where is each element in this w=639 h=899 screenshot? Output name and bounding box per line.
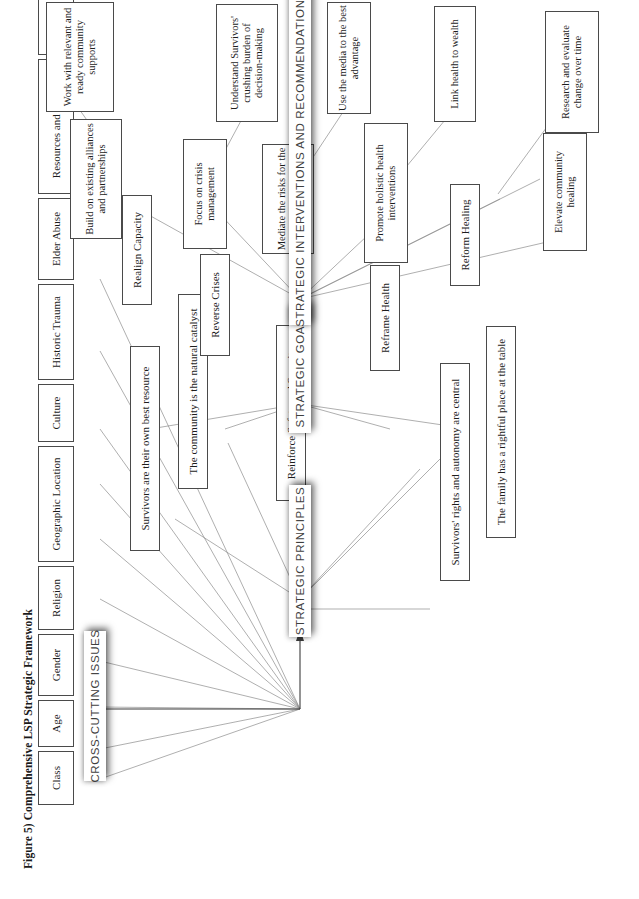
intervention-promote-holistic-health: Promote holistic health interventions <box>364 123 408 263</box>
node-label: Elevate community healing <box>553 136 577 248</box>
cross-cutting-issue-geographic-location: Geographic Location <box>38 446 74 562</box>
node-label: Work with relevant and ready community s… <box>62 5 98 109</box>
node-label: Culture <box>50 397 63 430</box>
strategic-principle-survivors-rights: Survivors' rights and autonomy are centr… <box>440 363 470 581</box>
node-label: Reverse Crises <box>209 272 222 338</box>
node-label: Focus on crisis management <box>193 142 217 246</box>
cross-cutting-issue-age: Age <box>38 700 74 747</box>
cross-cutting-issue-culture: Culture <box>38 384 74 442</box>
node-label: Build on existing alliances and partners… <box>84 122 108 236</box>
cross-cutting-issue-religion: Religion <box>38 566 74 630</box>
recommendation-research-and-evaluate-change: Research and evaluate change over time <box>545 11 599 133</box>
node-label: Class <box>50 766 63 790</box>
intervention-elevate-community-healing: Elevate community healing <box>543 133 587 251</box>
node-label: The family has a rightful place at the t… <box>495 339 508 525</box>
intervention-focus-on-crisis-management: Focus on crisis management <box>183 139 227 249</box>
band-strategic-interventions: STRATEGIC INTERVENTIONS AND RECOMMENDATI… <box>289 0 311 325</box>
band-principles-label: STRATEGIC PRINCIPLES <box>294 487 306 636</box>
recommendation-understand-survivors-burden: Understand Survivors' crushing burden of… <box>216 4 278 122</box>
recommendation-links <box>72 99 560 194</box>
strategic-goal-reform-healing: Reform Healing <box>450 184 480 286</box>
band-cross-cutting-label: CROSS-CUTTING ISSUES <box>89 629 101 782</box>
band-cross-cutting-issues: CROSS-CUTTING ISSUES <box>84 631 106 781</box>
node-label: Age <box>50 714 63 732</box>
cross-cutting-issue-elder-abuse: Elder Abuse <box>38 198 74 280</box>
strategic-goal-reframe-health: Reframe Health <box>370 265 400 371</box>
figure-canvas: Figure 5) Comprehensive LSP Strategic Fr… <box>0 0 639 899</box>
intervention-build-on-existing-alliances: Build on existing alliances and partners… <box>70 119 122 239</box>
node-label: Research and evaluate change over time <box>560 14 584 130</box>
node-label: Geographic Location <box>50 457 63 550</box>
band-interventions-label: STRATEGIC INTERVENTIONS AND RECOMMENDATI… <box>294 0 306 327</box>
node-label: Link health to wealth <box>449 19 461 109</box>
cross-cutting-issue-historic-trauma: Historic Trauma <box>38 284 74 380</box>
node-label: Gender <box>50 649 63 681</box>
band-strategic-principles: STRATEGIC PRINCIPLES <box>289 485 311 637</box>
node-label: Use the media to the best advantage <box>337 5 361 111</box>
cross-cutting-issue-gender: Gender <box>38 634 74 696</box>
strategic-goal-reverse-crises: Reverse Crises <box>200 254 230 356</box>
node-label: Reframe Health <box>379 283 392 353</box>
node-label: Realign Capacity <box>131 212 144 288</box>
cross-cutting-issue-class: Class <box>38 751 74 805</box>
node-label: Reform Healing <box>459 199 472 270</box>
recommendation-link-health-to-wealth: Link health to wealth <box>434 6 476 122</box>
principles-fan <box>175 429 470 609</box>
node-label: Survivors are their own best resource <box>139 366 152 530</box>
recommendation-work-with-community-supports: Work with relevant and ready community s… <box>46 2 114 112</box>
node-label: Elder Abuse <box>50 212 63 266</box>
strategic-principle-survivors-best-resource: Survivors are their own best resource <box>130 346 160 551</box>
band-goals-label: STRATEGIC GOALS <box>294 311 306 428</box>
recommendation-use-the-media: Use the media to the best advantage <box>327 2 371 114</box>
node-label: Religion <box>50 579 63 617</box>
node-label: Historic Trauma <box>50 296 63 368</box>
node-label: Survivors' rights and autonomy are centr… <box>449 379 462 566</box>
node-label: The community is the natural catalyst <box>187 309 200 475</box>
strategic-goal-realign-capacity: Realign Capacity <box>122 195 152 305</box>
node-label: Understand Survivors' crushing burden of… <box>229 7 265 119</box>
strategic-principle-family-rightful-place: The family has a rightful place at the t… <box>486 326 516 538</box>
node-label: Promote holistic health interventions <box>374 126 398 260</box>
